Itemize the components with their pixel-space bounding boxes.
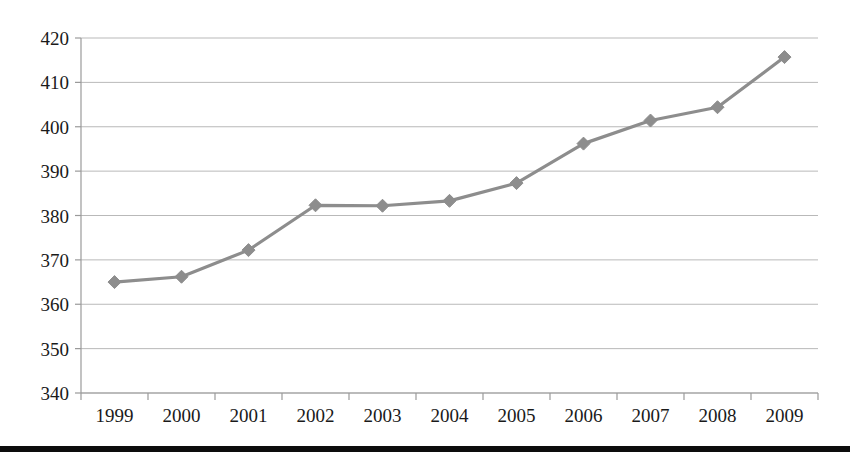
x-axis-tick-label: 2006 <box>565 405 603 426</box>
bottom-rule <box>0 446 850 452</box>
x-axis-tick-label: 2003 <box>364 405 402 426</box>
data-point-marker <box>577 137 590 150</box>
y-axis <box>75 38 81 393</box>
x-axis <box>81 393 818 400</box>
gridlines <box>81 38 818 393</box>
data-point-marker <box>510 177 523 190</box>
x-axis-tick-label: 2009 <box>766 405 804 426</box>
series-line <box>115 57 785 282</box>
data-point-marker <box>443 194 456 207</box>
x-axis-tick-label: 2005 <box>498 405 536 426</box>
line-chart-figure: 340350360370380390400410420 199920002001… <box>0 0 850 440</box>
x-axis-tick-label: 2004 <box>431 405 470 426</box>
x-axis-tick-label: 2002 <box>297 405 335 426</box>
y-axis-tick-label: 420 <box>41 28 70 49</box>
data-point-marker <box>108 276 121 289</box>
y-axis-tick-label: 410 <box>41 72 70 93</box>
y-axis-tick-labels: 340350360370380390400410420 <box>41 28 70 404</box>
x-axis-tick-label: 2001 <box>230 405 268 426</box>
chart-canvas: 340350360370380390400410420 199920002001… <box>0 0 850 440</box>
x-axis-tick-label: 2008 <box>699 405 737 426</box>
data-series <box>115 57 785 282</box>
x-axis-tick-label: 1999 <box>96 405 134 426</box>
data-point-markers <box>108 51 791 289</box>
y-axis-tick-label: 350 <box>41 339 70 360</box>
y-axis-tick-label: 390 <box>41 161 70 182</box>
y-axis-tick-label: 400 <box>41 117 70 138</box>
y-axis-tick-label: 340 <box>41 383 70 404</box>
x-axis-tick-labels: 1999200020012002200320042005200620072008… <box>96 405 804 426</box>
y-axis-tick-label: 360 <box>41 294 70 315</box>
x-axis-tick-label: 2000 <box>163 405 201 426</box>
x-axis-tick-label: 2007 <box>632 405 670 426</box>
data-point-marker <box>644 114 657 127</box>
y-axis-tick-label: 370 <box>41 250 70 271</box>
data-point-marker <box>376 199 389 212</box>
y-axis-tick-label: 380 <box>41 206 70 227</box>
chart-page: 340350360370380390400410420 199920002001… <box>0 0 850 456</box>
data-point-marker <box>175 270 188 283</box>
